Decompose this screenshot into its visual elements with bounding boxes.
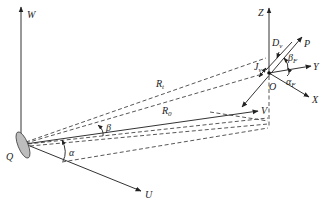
alpha-f-arc — [287, 68, 289, 76]
x-label: X — [311, 94, 319, 105]
alpha-f-label: αF — [286, 76, 296, 89]
dv-label: Dv — [271, 37, 283, 50]
p-label: P — [303, 38, 310, 49]
jv-label: Jv — [254, 61, 262, 74]
antenna-disk-icon — [13, 130, 33, 160]
y-label: Y — [313, 61, 320, 72]
w-label: W — [27, 9, 37, 20]
v-label: V — [261, 105, 269, 116]
z-label: Z — [258, 7, 264, 18]
alpha-label: α — [69, 147, 75, 158]
origin-o-point — [267, 71, 271, 75]
beta-f-label: βF — [287, 52, 298, 65]
beta-label: β — [105, 122, 111, 133]
coordinate-diagram: W U V Q α β Rt R0 Z Y X P O Dv Jv βF αF — [0, 0, 324, 209]
v-axis — [25, 111, 258, 144]
q-label: Q — [6, 151, 14, 162]
rt-label: Rt — [155, 78, 165, 91]
u-label: U — [145, 189, 153, 200]
o-label: O — [269, 81, 276, 92]
y-axis — [269, 66, 311, 73]
beta-arc — [98, 125, 103, 136]
u-axis — [25, 144, 141, 191]
dashed-range-lines — [26, 58, 269, 162]
r0-label: R0 — [161, 105, 172, 118]
